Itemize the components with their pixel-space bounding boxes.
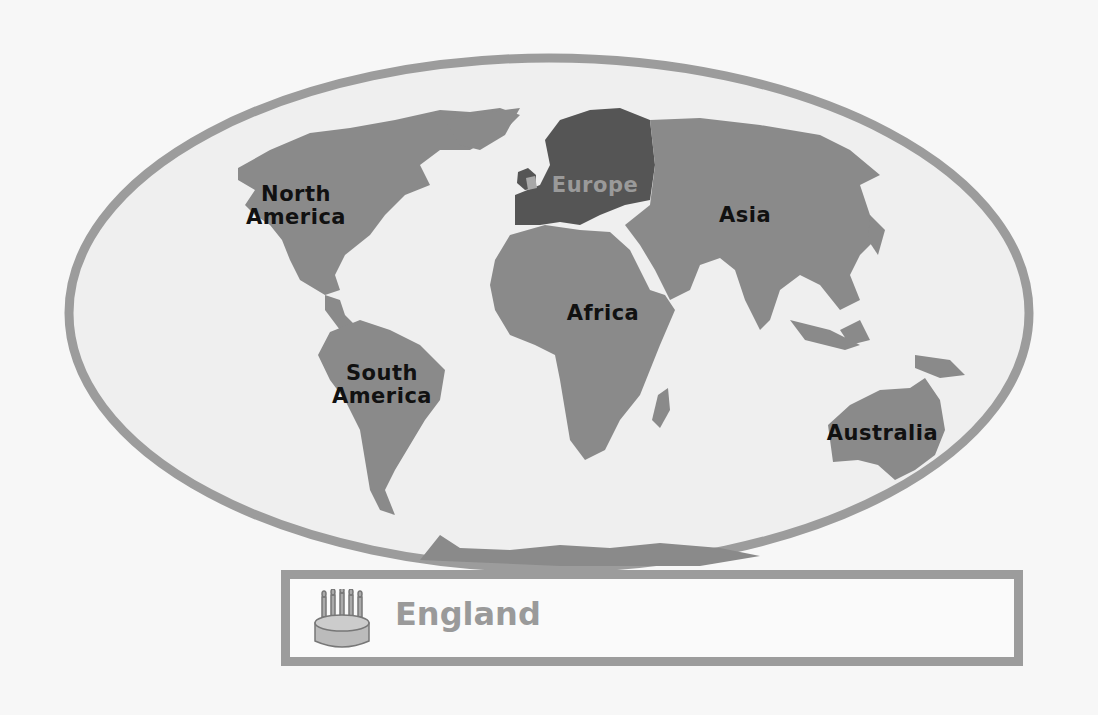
birthday-cake-icon — [312, 589, 376, 653]
caption-box: England — [281, 570, 1023, 666]
label-north-america-line2: America — [236, 206, 356, 229]
label-south-america-line1: South — [322, 362, 442, 385]
caption-title: England — [395, 595, 541, 633]
label-europe: Europe — [540, 174, 650, 197]
england — [526, 176, 537, 190]
label-south-america: South America — [322, 362, 442, 408]
label-south-america-line2: America — [322, 385, 442, 408]
label-asia: Asia — [710, 204, 780, 227]
label-north-america: North America — [236, 183, 356, 229]
label-australia: Australia — [820, 422, 945, 445]
label-africa: Africa — [558, 302, 648, 325]
label-north-america-line1: North — [236, 183, 356, 206]
